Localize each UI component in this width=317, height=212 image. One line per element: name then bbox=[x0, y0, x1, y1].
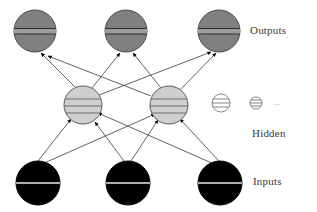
edge-i3-h2 bbox=[180, 119, 219, 161]
output-node-1[interactable] bbox=[12, 10, 58, 52]
edges-hidden-to-output bbox=[41, 52, 216, 96]
hidden-ellipsis: ... bbox=[274, 98, 280, 107]
layer-label-outputs: Outputs bbox=[250, 24, 286, 36]
hidden-node-3-small[interactable] bbox=[210, 94, 232, 112]
output-node-2[interactable] bbox=[103, 10, 149, 52]
hidden-node-1[interactable] bbox=[62, 86, 104, 124]
edge-h2-o2 bbox=[133, 53, 161, 88]
input-node-2[interactable] bbox=[104, 161, 152, 205]
layer-label-hidden: Hidden bbox=[252, 127, 286, 139]
neural-network-diagram: ... Outputs Hidden Inputs bbox=[0, 0, 317, 212]
edge-i1-h1 bbox=[38, 119, 71, 161]
edge-i2-h1 bbox=[95, 122, 124, 161]
hidden-node-2[interactable] bbox=[148, 86, 190, 124]
hidden-node-4-small[interactable] bbox=[248, 97, 264, 109]
input-layer-nodes bbox=[14, 161, 244, 205]
edges-input-to-hidden bbox=[38, 113, 219, 164]
layer-label-inputs: Inputs bbox=[253, 175, 282, 187]
input-node-1[interactable] bbox=[14, 161, 62, 205]
edge-h2-o3 bbox=[180, 53, 216, 90]
edge-i3-h1 bbox=[98, 113, 214, 164]
output-node-3[interactable] bbox=[196, 10, 242, 52]
hidden-layer-nodes bbox=[62, 86, 264, 124]
output-layer-nodes bbox=[12, 10, 242, 52]
edge-i2-h2 bbox=[131, 120, 158, 161]
edge-h1-o1 bbox=[41, 53, 76, 88]
input-node-3[interactable] bbox=[196, 161, 244, 205]
edge-i1-h2 bbox=[42, 114, 155, 164]
